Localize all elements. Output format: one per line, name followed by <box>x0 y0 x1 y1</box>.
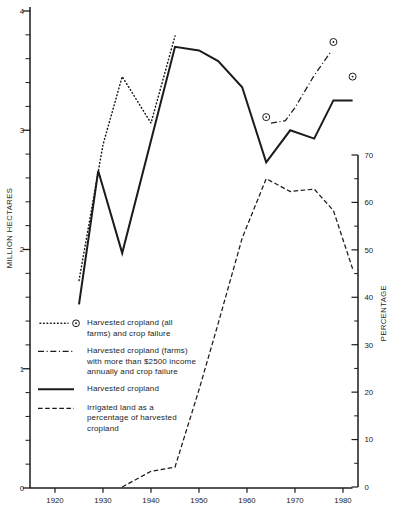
y-right-tick-label: 0 <box>365 483 370 492</box>
x-tick-label: 1940 <box>142 496 160 505</box>
circled-dot-marker-icon <box>263 114 270 121</box>
y-right-tick-label: 30 <box>365 341 374 350</box>
y-left-tick-label: 0 <box>20 484 25 493</box>
y-left-tick-label: 4 <box>20 7 25 16</box>
series-line-harvested-cropland-all-farms-and-crop-fa <box>79 36 175 281</box>
circled-dot-marker-icon <box>330 39 337 46</box>
chart-canvas: 0123419201930194019501960197019800102030… <box>0 0 393 508</box>
y-left-tick-label: 1 <box>20 365 24 374</box>
series-line-irrigated-land-as-a-percentage-of-harves <box>122 179 352 487</box>
y-left-tick-label: 2 <box>20 245 24 254</box>
y-right-tick-label: 50 <box>365 246 374 255</box>
y-left-tick-label: 3 <box>20 126 24 135</box>
x-tick-label: 1920 <box>46 496 64 505</box>
x-tick-label: 1960 <box>238 496 256 505</box>
y-right-tick-label: 40 <box>365 293 374 302</box>
chart-figure: 0123419201930194019501960197019800102030… <box>0 0 393 508</box>
y-right-tick-label: 60 <box>365 198 374 207</box>
x-tick-label: 1970 <box>286 496 304 505</box>
series-line-harvested-cropland-farms-with-more-than- <box>271 52 331 124</box>
axes: 0123419201930194019501960197019800102030… <box>20 7 374 505</box>
y-right-axis-title: PERCENTAGE <box>379 285 388 341</box>
y-right-tick-label: 10 <box>365 435 374 444</box>
x-tick-label: 1980 <box>334 496 352 505</box>
x-tick-label: 1930 <box>94 496 112 505</box>
y-left-axis-title: MILLION HECTARES <box>5 188 14 268</box>
x-tick-label: 1950 <box>190 496 208 505</box>
y-right-tick-label: 70 <box>365 151 374 160</box>
circled-dot-marker-icon <box>349 73 356 80</box>
y-right-tick-label: 20 <box>365 388 374 397</box>
data-series <box>79 36 356 487</box>
